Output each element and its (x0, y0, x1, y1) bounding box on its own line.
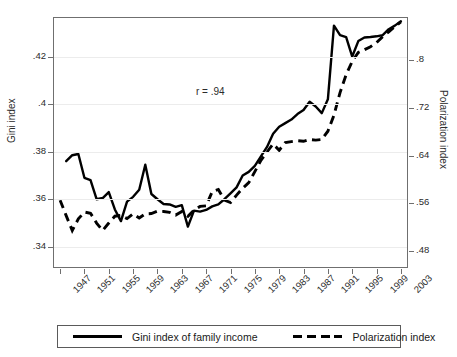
x-tick (377, 269, 378, 274)
y-tick-left (48, 247, 53, 248)
chart-figure: .42.4.38.36.34.8.72.64.56.48194719511955… (0, 0, 457, 357)
legend-label-polarization: Polarization index (352, 331, 435, 343)
x-tick (133, 269, 134, 274)
x-tick-label: 1951 (95, 273, 117, 295)
x-tick (206, 269, 207, 274)
y-tick-label-right: .8 (416, 54, 424, 64)
y-tick-label-left: .34 (33, 241, 46, 251)
x-tick-label: 1991 (339, 273, 361, 295)
y-tick-label-right: .72 (416, 102, 429, 112)
x-tick (60, 269, 61, 274)
y-axis-title-left: Gini index (6, 99, 17, 143)
x-tick-label: 1955 (120, 273, 142, 295)
y-tick-label-left: .38 (33, 146, 46, 156)
y-tick-right (409, 60, 414, 61)
y-tick-left (48, 57, 53, 58)
x-tick-label: 1967 (193, 273, 215, 295)
chart-legend: Gini index of family income Polarization… (57, 325, 401, 348)
y-tick-label-left: .42 (33, 51, 46, 61)
gridline-y (54, 57, 407, 58)
gridline-y (54, 247, 407, 248)
x-tick-label: 1999 (388, 273, 410, 295)
plot-area (53, 17, 408, 268)
x-tick-label: 2003 (412, 273, 434, 295)
x-tick (109, 269, 110, 274)
y-tick-left (48, 199, 53, 200)
y-tick-right (409, 156, 414, 157)
gridline-y (54, 199, 407, 200)
legend-label-gini: Gini index of family income (132, 331, 257, 343)
gridline-y (54, 152, 407, 153)
y-tick-right (409, 203, 414, 204)
x-tick (182, 269, 183, 274)
y-tick-right (409, 108, 414, 109)
x-tick (157, 269, 158, 274)
y-tick-label-right: .48 (416, 245, 429, 255)
x-tick (231, 269, 232, 274)
correlation-annotation: r = .94 (196, 86, 225, 97)
series-layer (54, 18, 407, 267)
y-tick-label-right: .64 (416, 150, 429, 160)
y-tick-left (48, 104, 53, 105)
y-tick-left (48, 152, 53, 153)
legend-swatch-dashed-line (293, 331, 342, 342)
x-tick (328, 269, 329, 274)
x-tick (401, 269, 402, 274)
legend-swatch-solid-line (73, 331, 122, 342)
x-tick-label: 1987 (315, 273, 337, 295)
y-axis-title-right: Polarization index (438, 90, 449, 169)
x-tick (84, 269, 85, 274)
x-tick-label: 1959 (144, 273, 166, 295)
legend-item-polarization[interactable]: Polarization index (293, 331, 435, 343)
legend-item-gini[interactable]: Gini index of family income (73, 331, 257, 343)
gridline-y (54, 104, 407, 105)
x-tick-label: 1979 (266, 273, 288, 295)
x-tick (279, 269, 280, 274)
x-tick (255, 269, 256, 274)
y-tick-label-right: .56 (416, 197, 429, 207)
x-tick-label: 1963 (168, 273, 190, 295)
y-tick-right (409, 251, 414, 252)
x-tick (304, 269, 305, 274)
y-tick-label-left: .36 (33, 193, 46, 203)
x-tick-label: 1995 (363, 273, 385, 295)
series-line-gini (66, 21, 401, 226)
x-tick-label: 1975 (242, 273, 264, 295)
x-tick-label: 1947 (71, 273, 93, 295)
x-tick-label: 1971 (217, 273, 239, 295)
x-tick (352, 269, 353, 274)
x-tick-label: 1983 (290, 273, 312, 295)
y-tick-label-left: .4 (38, 98, 46, 108)
